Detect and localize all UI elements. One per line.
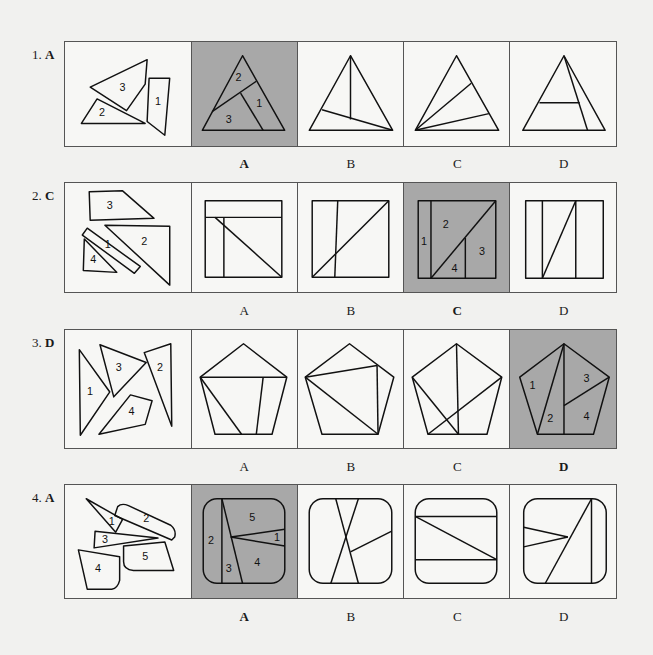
answer-key: C (45, 188, 54, 203)
question-grid: 3 1 2 4 (64, 182, 617, 293)
square-option-a-figure (192, 183, 297, 292)
rounded-square-option-d-figure (510, 485, 616, 598)
question-number: 3. D (32, 335, 54, 351)
square-option-b-figure (298, 183, 403, 292)
pieces-panel: 1 2 3 5 4 (65, 485, 192, 598)
svg-text:2: 2 (157, 361, 163, 373)
svg-text:1: 1 (109, 515, 115, 527)
option-d[interactable] (510, 183, 616, 292)
question-grid: 1 3 2 4 (64, 329, 617, 449)
svg-text:2: 2 (99, 106, 105, 118)
option-b[interactable] (298, 485, 404, 598)
option-labels: A B C D (191, 609, 617, 625)
pentagon-option-b-figure (298, 330, 403, 448)
svg-text:5: 5 (142, 550, 148, 562)
rounded-square-option-c-figure (404, 485, 509, 598)
option-c[interactable] (404, 42, 510, 146)
option-label-b: B (298, 459, 405, 475)
pieces-panel: 3 2 1 (65, 42, 192, 146)
option-label-a: A (191, 609, 298, 625)
svg-text:1: 1 (274, 531, 280, 543)
svg-text:5: 5 (249, 511, 255, 523)
option-b[interactable] (298, 183, 404, 292)
svg-text:1: 1 (105, 238, 111, 250)
option-label-b: B (298, 609, 405, 625)
rounded-square-pieces-figure: 1 2 3 5 4 (65, 485, 191, 598)
option-label-c: C (404, 609, 511, 625)
answer-key: A (45, 490, 54, 505)
svg-text:4: 4 (128, 405, 134, 417)
option-label-a: A (191, 459, 298, 475)
option-a[interactable] (192, 330, 298, 448)
option-label-c: C (404, 303, 511, 319)
option-a[interactable]: 5 2 1 3 4 (192, 485, 298, 598)
svg-text:3: 3 (479, 245, 485, 257)
option-label-a: A (191, 156, 298, 172)
svg-text:1: 1 (421, 235, 427, 247)
option-c[interactable] (404, 485, 510, 598)
option-label-b: B (298, 303, 405, 319)
svg-text:3: 3 (584, 372, 590, 384)
option-b[interactable] (298, 330, 404, 448)
question-grid: 1 2 3 5 4 5 2 1 3 4 (64, 484, 617, 599)
option-label-c: C (404, 156, 511, 172)
question-grid: 3 2 1 2 1 3 (64, 41, 617, 147)
pieces-panel: 1 3 2 4 (65, 330, 192, 448)
triangle-option-a-figure: 2 1 3 (192, 42, 297, 146)
option-label-b: B (298, 156, 405, 172)
question-number: 1. A (32, 47, 54, 63)
svg-text:2: 2 (143, 512, 149, 524)
answer-key: A (45, 47, 54, 62)
rounded-square-option-a-figure: 5 2 1 3 4 (192, 485, 297, 598)
svg-text:2: 2 (141, 235, 147, 247)
option-c[interactable]: 2 1 3 4 (404, 183, 510, 292)
svg-text:2: 2 (236, 71, 242, 83)
square-option-c-figure: 2 1 3 4 (404, 183, 509, 292)
option-label-d: D (511, 459, 618, 475)
pieces-panel: 3 1 2 4 (65, 183, 192, 292)
svg-text:3: 3 (116, 361, 122, 373)
option-a[interactable] (192, 183, 298, 292)
option-label-d: D (511, 303, 618, 319)
svg-text:4: 4 (254, 556, 260, 568)
svg-text:4: 4 (95, 562, 101, 574)
svg-text:2: 2 (443, 218, 449, 230)
svg-text:3: 3 (226, 113, 232, 125)
svg-text:3: 3 (107, 199, 113, 211)
option-d[interactable] (510, 485, 616, 598)
triangle-pieces-figure: 3 2 1 (65, 42, 191, 146)
question-number: 4. A (32, 490, 54, 506)
pentagon-option-a-figure (192, 330, 297, 448)
svg-text:3: 3 (120, 81, 126, 93)
option-labels: A B C D (191, 459, 617, 475)
option-label-a: A (191, 303, 298, 319)
option-c[interactable] (404, 330, 510, 448)
option-label-d: D (511, 156, 618, 172)
option-b[interactable] (298, 42, 404, 146)
option-d[interactable] (510, 42, 616, 146)
answer-key: D (45, 335, 54, 350)
square-option-d-figure (510, 183, 616, 292)
rounded-square-option-b-figure (298, 485, 403, 598)
square-pieces-figure: 3 1 2 4 (65, 183, 191, 292)
pentagon-option-d-figure: 1 3 2 4 (510, 330, 616, 448)
pentagon-pieces-figure: 1 3 2 4 (65, 330, 191, 448)
svg-text:1: 1 (256, 97, 262, 109)
svg-text:4: 4 (584, 410, 590, 422)
svg-text:2: 2 (547, 412, 553, 424)
svg-text:2: 2 (208, 534, 214, 546)
svg-text:1: 1 (155, 95, 161, 107)
svg-text:1: 1 (530, 379, 536, 391)
svg-text:4: 4 (90, 253, 96, 265)
option-d[interactable]: 1 3 2 4 (510, 330, 616, 448)
option-label-c: C (404, 459, 511, 475)
triangle-option-d-figure (510, 42, 616, 146)
svg-text:1: 1 (87, 385, 93, 397)
pentagon-option-c-figure (404, 330, 509, 448)
svg-text:3: 3 (102, 533, 108, 545)
triangle-option-b-figure (298, 42, 403, 146)
svg-text:3: 3 (226, 562, 232, 574)
triangle-option-c-figure (404, 42, 509, 146)
option-labels: A B C D (191, 303, 617, 319)
option-a[interactable]: 2 1 3 (192, 42, 298, 146)
